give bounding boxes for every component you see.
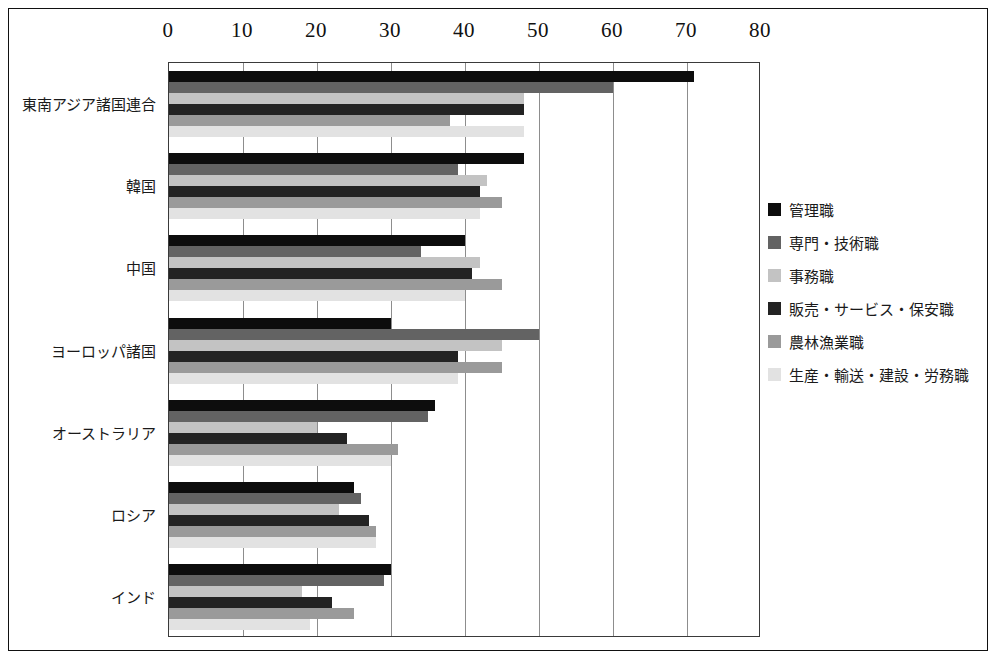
- legend-label: 生産・輸送・建設・労務職: [789, 364, 969, 385]
- bar: [169, 433, 347, 444]
- legend-label: 事務職: [789, 265, 834, 286]
- bar: [169, 268, 472, 279]
- bar: [169, 400, 435, 411]
- bar: [169, 71, 694, 82]
- bar: [169, 351, 458, 362]
- x-tick-label: 60: [601, 18, 623, 43]
- x-tick-label: 30: [379, 18, 401, 43]
- bar: [169, 597, 332, 608]
- x-tick-label: 50: [527, 18, 549, 43]
- bar-group: [169, 400, 759, 466]
- legend-item: 販売・サービス・保安職: [768, 299, 988, 317]
- legend-swatch-icon: [768, 302, 781, 315]
- bar: [169, 493, 361, 504]
- category-label: ヨーロッパ諸国: [0, 339, 156, 360]
- legend-label: 管理職: [789, 199, 834, 220]
- legend-label: 農林漁業職: [789, 331, 864, 352]
- category-label-text: インド: [111, 588, 156, 606]
- bar: [169, 82, 613, 93]
- x-tick-label: 40: [453, 18, 475, 43]
- category-label-text: 東南アジア諸国連合: [22, 96, 156, 114]
- x-tick-label: 80: [749, 18, 771, 43]
- bar: [169, 208, 480, 219]
- bar: [169, 373, 458, 384]
- x-tick-label: 70: [675, 18, 697, 43]
- legend: 管理職専門・技術職事務職販売・サービス・保安職農林漁業職生産・輸送・建設・労務職: [768, 200, 988, 398]
- category-label-text: ロシア: [111, 506, 156, 524]
- bar: [169, 340, 502, 351]
- bar: [169, 504, 339, 515]
- category-label-text: 韓国: [126, 178, 156, 196]
- bar: [169, 164, 458, 175]
- bar: [169, 444, 398, 455]
- bar-group: [169, 235, 759, 301]
- bar: [169, 186, 480, 197]
- bar: [169, 619, 310, 630]
- bar: [169, 515, 369, 526]
- bar: [169, 126, 524, 137]
- category-label: インド: [0, 585, 156, 606]
- bar: [169, 115, 450, 126]
- bar: [169, 526, 376, 537]
- legend-item: 管理職: [768, 200, 988, 218]
- chart-page: 01020304050607080 東南アジア諸国連合韓国中国ヨーロッパ諸国オー…: [0, 0, 998, 661]
- category-label: 東南アジア諸国連合: [0, 93, 156, 114]
- category-label: 中国: [0, 257, 156, 278]
- bar-group: [169, 482, 759, 548]
- legend-label: 専門・技術職: [789, 232, 879, 253]
- legend-swatch-icon: [768, 269, 781, 282]
- bar: [169, 153, 524, 164]
- category-label-text: 中国: [126, 260, 156, 278]
- legend-swatch-icon: [768, 203, 781, 216]
- bar: [169, 246, 421, 257]
- legend-item: 専門・技術職: [768, 233, 988, 251]
- bar: [169, 279, 502, 290]
- legend-item: 生産・輸送・建設・労務職: [768, 365, 988, 383]
- bar: [169, 608, 354, 619]
- bar-group: [169, 71, 759, 137]
- bar-group: [169, 564, 759, 630]
- bar: [169, 290, 465, 301]
- plot-area: [168, 62, 760, 637]
- legend-item: 農林漁業職: [768, 332, 988, 350]
- bar: [169, 422, 317, 433]
- bar: [169, 318, 391, 329]
- category-label: ロシア: [0, 503, 156, 524]
- legend-item: 事務職: [768, 266, 988, 284]
- bar: [169, 537, 376, 548]
- bar-group: [169, 318, 759, 384]
- bar: [169, 329, 539, 340]
- category-label: オーストラリア: [0, 421, 156, 442]
- bar-group: [169, 153, 759, 219]
- bar: [169, 257, 480, 268]
- bar: [169, 575, 384, 586]
- bar: [169, 93, 524, 104]
- category-label: 韓国: [0, 175, 156, 196]
- bar: [169, 455, 391, 466]
- category-label-text: オーストラリア: [52, 424, 156, 442]
- bar: [169, 235, 465, 246]
- bar: [169, 175, 487, 186]
- legend-label: 販売・サービス・保安職: [789, 298, 954, 319]
- bar: [169, 197, 502, 208]
- legend-swatch-icon: [768, 335, 781, 348]
- legend-swatch-icon: [768, 236, 781, 249]
- bar: [169, 482, 354, 493]
- x-tick-label: 10: [231, 18, 253, 43]
- bar: [169, 564, 391, 575]
- x-tick-label: 20: [305, 18, 327, 43]
- bar: [169, 104, 524, 115]
- x-tick-label: 0: [163, 18, 174, 43]
- bar: [169, 411, 428, 422]
- category-label-text: ヨーロッパ諸国: [51, 342, 156, 360]
- bar: [169, 586, 302, 597]
- legend-swatch-icon: [768, 368, 781, 381]
- bar: [169, 362, 502, 373]
